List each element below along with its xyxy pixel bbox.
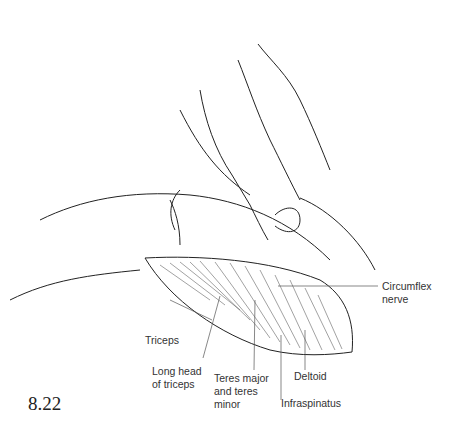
label-deltoid: Deltoid xyxy=(294,370,327,383)
label-teres-major-minor: Teres major and teres minor xyxy=(214,372,269,411)
label-line: of triceps xyxy=(152,378,202,391)
label-line: Teres major xyxy=(214,372,269,385)
hand-outline xyxy=(180,44,375,270)
label-line: Long head xyxy=(152,365,202,378)
label-triceps: Triceps xyxy=(145,334,179,347)
label-long-head-of-triceps: Long head of triceps xyxy=(152,365,202,391)
figure-number: 8.22 xyxy=(28,393,61,415)
label-infraspinatus: Infraspinatus xyxy=(281,397,341,410)
label-line: nerve xyxy=(382,293,432,306)
label-line: minor xyxy=(214,398,269,411)
surgical-illustration xyxy=(0,0,459,434)
label-line: and teres xyxy=(214,385,269,398)
arm-outline xyxy=(10,190,330,300)
label-line: Circumflex xyxy=(382,280,432,293)
label-circumflex-nerve: Circumflex nerve xyxy=(382,280,432,306)
